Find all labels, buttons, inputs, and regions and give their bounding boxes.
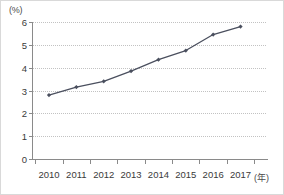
data-point-marker bbox=[102, 79, 106, 83]
y-axis-tick-label: 1 bbox=[7, 131, 27, 142]
data-point-markers bbox=[47, 24, 243, 97]
y-axis-tick-label: 5 bbox=[7, 39, 27, 50]
data-point-marker bbox=[74, 85, 78, 89]
x-axis-tick-label: 2014 bbox=[138, 169, 178, 180]
y-axis-unit-label: (%) bbox=[9, 5, 22, 15]
x-axis-line bbox=[32, 159, 268, 160]
x-axis-tick-label: 2012 bbox=[84, 169, 124, 180]
x-axis-tick-label: 2010 bbox=[29, 169, 69, 180]
chart-figure: (%) (年) 0123456 201020112012201320142015… bbox=[0, 0, 284, 195]
y-axis-tick-label: 2 bbox=[7, 108, 27, 119]
data-point-marker bbox=[238, 24, 242, 28]
data-point-marker bbox=[129, 69, 133, 73]
x-axis-unit-label: (年) bbox=[254, 171, 269, 184]
data-point-marker bbox=[47, 93, 51, 97]
y-axis-tick-label: 6 bbox=[7, 17, 27, 28]
x-axis-tick-label: 2016 bbox=[193, 169, 233, 180]
x-axis-tick-label: 2011 bbox=[56, 169, 96, 180]
y-axis-tick-label: 4 bbox=[7, 62, 27, 73]
y-axis-tick-label: 3 bbox=[7, 85, 27, 96]
data-point-marker bbox=[156, 58, 160, 62]
x-axis-tick-label: 2015 bbox=[166, 169, 206, 180]
x-axis-tick-label: 2013 bbox=[111, 169, 151, 180]
data-series-line bbox=[32, 22, 266, 159]
y-axis-tick-label: 0 bbox=[7, 154, 27, 165]
